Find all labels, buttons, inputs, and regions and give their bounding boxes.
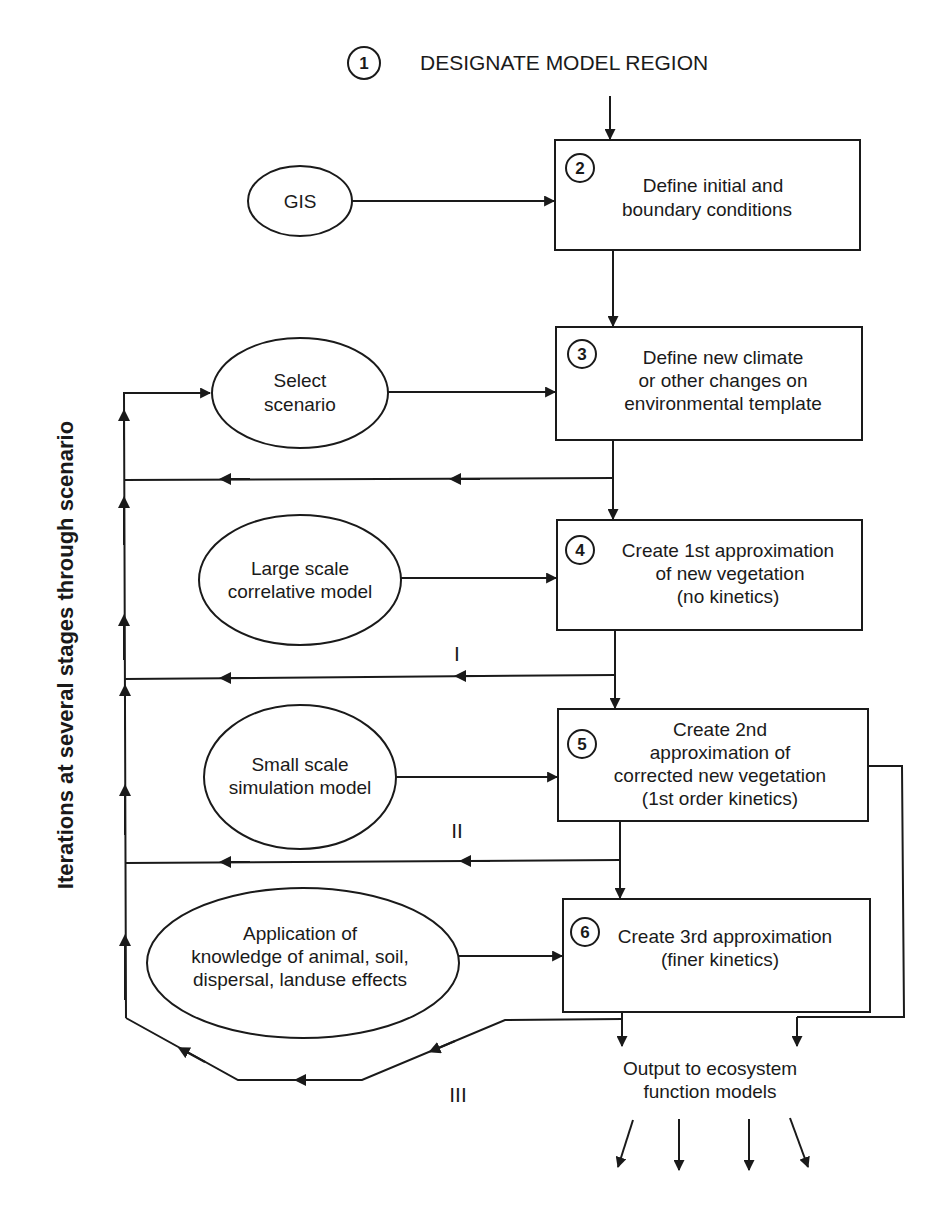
step-number: 6 [580,923,589,942]
step-text: environmental template [624,393,822,414]
input-text: Small scale [251,754,348,775]
step-text: (finer kinetics) [661,949,779,970]
output-text: function models [643,1081,776,1102]
step-text: Create 1st approximation [622,540,834,561]
feedback-line-I [124,675,615,679]
input-text: Select [274,370,328,391]
input-text: knowledge of animal, soil, [191,946,409,967]
input-application-knowledge: Application of knowledge of animal, soil… [147,888,459,1038]
side-label: Iterations at several stages through sce… [53,421,78,889]
output-arrow [790,1118,808,1167]
step-text: of new vegetation [656,563,805,584]
step-text: Define initial and [643,175,783,196]
feedback-arrow [183,1050,205,1062]
step-number: 3 [577,345,586,364]
input-large-scale-model: Large scale correlative model [199,515,401,645]
step-number: 1 [359,54,368,73]
input-text: Large scale [251,558,349,579]
input-text: Application of [243,923,358,944]
step-3-box: 3 Define new climate or other changes on… [556,327,862,440]
output-text: Output to ecosystem [623,1058,797,1079]
loop-label-I: I [454,642,460,665]
output-arrow [618,1120,633,1167]
model-flow-diagram: 1 DESIGNATE MODEL REGION 2 Define initia… [0,0,942,1205]
input-text: dispersal, landuse effects [193,969,407,990]
step-text: or other changes on [638,370,807,391]
step-4-box: 4 Create 1st approximation of new vegeta… [557,520,862,630]
step-text: Create 2nd [673,719,767,740]
input-text: scenario [264,394,336,415]
loop-label-III: III [449,1083,467,1106]
step-text: (no kinetics) [677,586,779,607]
step-2-box: 2 Define initial and boundary conditions [555,140,860,250]
title-label: DESIGNATE MODEL REGION [420,51,708,74]
output-label: Output to ecosystem function models [623,1058,797,1102]
step-text: Define new climate [643,347,804,368]
input-text: correlative model [228,581,373,602]
step-1-title: 1 DESIGNATE MODEL REGION [348,47,708,79]
step-6-box: 6 Create 3rd approximation (finer kineti… [563,899,870,1012]
input-select-scenario: Select scenario [212,338,388,448]
input-gis: GIS [248,166,352,236]
step-text: approximation of [650,742,791,763]
feedback-line-3 [124,478,613,480]
input-small-scale-model: Small scale simulation model [204,705,396,849]
step-5-box: 5 Create 2nd approximation of corrected … [558,709,868,821]
input-text: simulation model [229,777,372,798]
step-number: 2 [575,159,584,178]
input-text: GIS [284,191,317,212]
feedback-arrow [434,1041,455,1050]
step-number: 4 [575,541,585,560]
loop-label-II: II [451,819,463,842]
step-text: (1st order kinetics) [642,788,798,809]
feedback-line-II [125,860,620,863]
step-number: 5 [577,735,586,754]
step-text: Create 3rd approximation [618,926,832,947]
step-text: boundary conditions [622,199,792,220]
step-text: corrected new vegetation [614,765,826,786]
